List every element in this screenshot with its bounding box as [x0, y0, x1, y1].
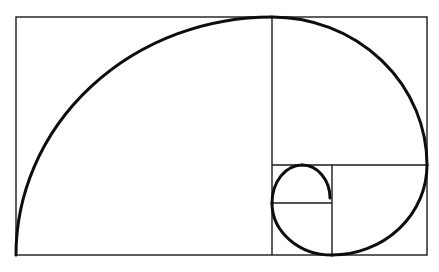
spiral-arc-3 — [332, 165, 427, 255]
golden-spiral-diagram — [0, 0, 439, 272]
spiral-arc-6 — [302, 165, 330, 198]
spiral-arc-5 — [272, 165, 302, 203]
outer-golden-rectangle — [16, 17, 427, 255]
spiral-curve — [16, 17, 427, 255]
spiral-arc-2 — [272, 17, 427, 165]
spiral-arc-1 — [16, 17, 272, 255]
spiral-arc-4 — [272, 203, 332, 255]
square-dividers — [272, 17, 427, 255]
